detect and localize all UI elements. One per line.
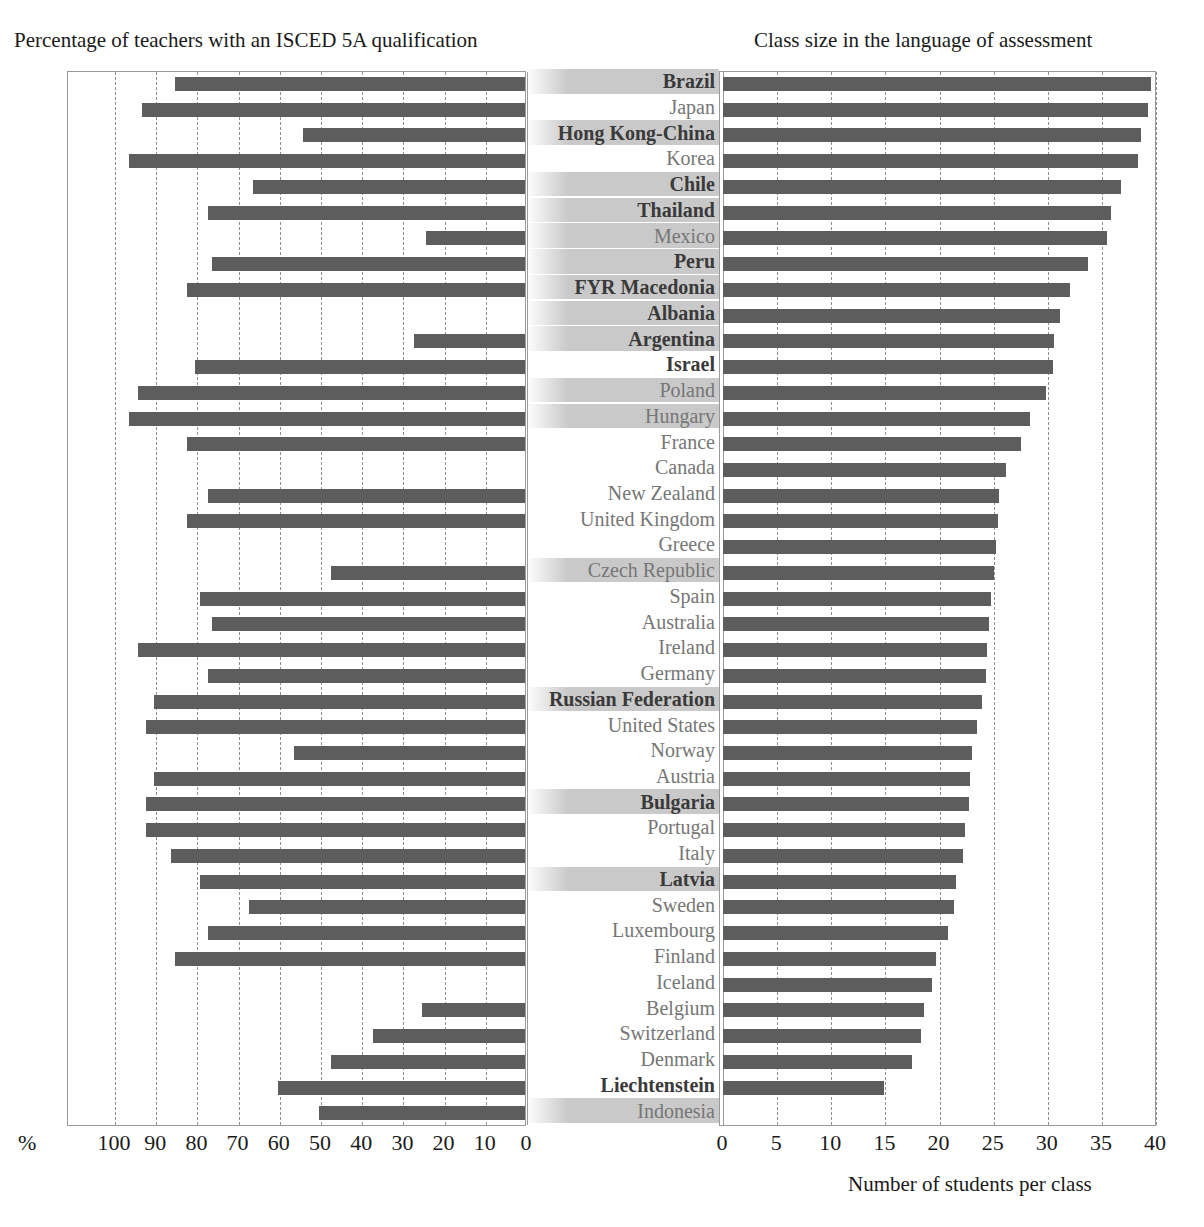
table-row [720,870,1155,895]
table-row [68,792,525,817]
left-tick-70: 70 [227,1130,249,1156]
country-label-text: Brazil [663,71,715,91]
country-label-text: Germany [641,663,715,683]
right-bar [723,1055,912,1069]
right-bar [723,926,948,940]
country-label-text: Iceland [656,972,715,992]
table-row [68,1076,525,1101]
table-row [720,1024,1155,1049]
table-row [720,664,1155,689]
country-label-norway: Norway [526,738,719,763]
right-bar [723,592,991,606]
country-label-hong-kong-china: Hong Kong-China [526,120,719,145]
left-bar [200,875,525,889]
left-tick-30: 30 [391,1130,413,1156]
table-row [720,792,1155,817]
table-row [720,1076,1155,1101]
right-bar [723,180,1121,194]
table-row [720,72,1155,97]
right-chart-axis-ticks: 0510152025303540 [600,1130,1204,1158]
table-row [68,329,525,354]
table-row [720,304,1155,329]
table-row [68,895,525,920]
right-bar [723,643,987,657]
table-row [720,1101,1155,1126]
right-gridline-40 [1156,72,1157,1125]
table-row [68,252,525,277]
country-label-canada: Canada [526,455,719,480]
table-row [68,947,525,972]
left-bar [146,720,525,734]
country-label-text: Sweden [652,895,715,915]
left-tick-20: 20 [433,1130,455,1156]
table-row [720,458,1155,483]
right-bar [723,206,1111,220]
right-tick-15: 15 [873,1130,895,1156]
country-label-luxembourg: Luxembourg [526,918,719,943]
table-row [720,329,1155,354]
country-label-text: Russian Federation [549,689,715,709]
table-row [720,767,1155,792]
right-bar [723,412,1030,426]
table-row [720,998,1155,1023]
right-bar [723,386,1046,400]
table-row [68,72,525,97]
country-label-text: Finland [654,946,715,966]
table-row [68,175,525,200]
country-label-spain: Spain [526,584,719,609]
country-label-france: France [526,429,719,454]
table-row [68,638,525,663]
table-row [68,484,525,509]
country-label-column: BrazilJapanHong Kong-ChinaKoreaChileThai… [526,71,719,1126]
right-tick-35: 35 [1090,1130,1112,1156]
right-chart-bars [720,72,1155,1125]
table-row [68,587,525,612]
right-bar [723,1003,924,1017]
country-label-text: Japan [669,97,715,117]
table-row [68,407,525,432]
left-bar [154,772,525,786]
table-row [68,98,525,123]
country-label-united-kingdom: United Kingdom [526,506,719,531]
table-row [720,432,1155,457]
right-bar [723,514,998,528]
country-label-bulgaria: Bulgaria [526,789,719,814]
right-bar [723,900,954,914]
country-label-text: Norway [651,740,715,760]
left-bar [138,386,525,400]
table-row [68,278,525,303]
country-label-greece: Greece [526,532,719,557]
table-row [68,998,525,1023]
table-row [68,664,525,689]
right-bar [723,489,999,503]
country-label-text: Australia [642,612,715,632]
right-bar [723,617,989,631]
left-bar [331,566,525,580]
right-bar [723,1029,921,1043]
table-row [68,226,525,251]
country-label-text: Latvia [659,869,715,889]
left-bar [138,643,525,657]
country-label-hungary: Hungary [526,404,719,429]
country-label-text: United Kingdom [580,509,715,529]
country-label-text: Israel [666,354,715,374]
right-tick-40: 40 [1144,1130,1166,1156]
table-row [68,921,525,946]
right-bar [723,309,1060,323]
right-bar [723,695,982,709]
left-tick-40: 40 [350,1130,372,1156]
country-label-korea: Korea [526,146,719,171]
right-bar [723,978,932,992]
country-label-thailand: Thailand [526,198,719,223]
left-bar [154,695,525,709]
right-bar [723,720,977,734]
left-tick-0: 0 [521,1130,532,1156]
left-bar [146,797,525,811]
country-label-united-states: United States [526,712,719,737]
country-label-germany: Germany [526,661,719,686]
table-row [720,844,1155,869]
right-bar [723,823,965,837]
left-tick-80: 80 [185,1130,207,1156]
left-bar [319,1106,525,1120]
table-row [720,535,1155,560]
